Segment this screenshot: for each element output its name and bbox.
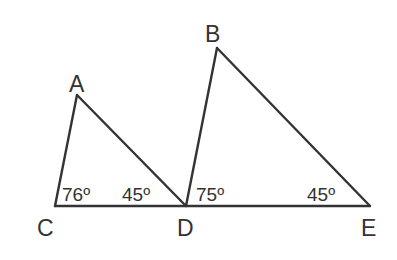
angle-label-d-bde: 75º <box>196 184 224 205</box>
geometry-diagram: A B C D E 76º 45º 75º 45º <box>0 0 397 260</box>
vertex-label-a: A <box>69 71 85 97</box>
angle-label-d-acd: 45º <box>122 184 150 205</box>
angle-label-c: 76º <box>62 184 90 205</box>
vertex-label-b: B <box>205 21 220 47</box>
vertex-label-c: C <box>37 215 54 241</box>
edge-bd <box>186 48 217 206</box>
angle-label-e: 45º <box>307 184 335 205</box>
edge-be <box>217 48 370 206</box>
vertex-label-e: E <box>361 215 376 241</box>
triangle-bde <box>186 48 370 206</box>
vertex-label-d: D <box>177 215 194 241</box>
